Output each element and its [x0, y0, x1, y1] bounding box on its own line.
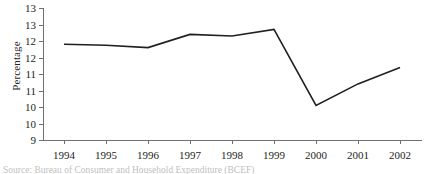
x-tick-label: 2002	[389, 150, 411, 161]
y-tick-label: 12	[25, 52, 36, 63]
x-tick-label: 1996	[137, 150, 159, 161]
x-tick-label: 2001	[347, 150, 369, 161]
x-tick	[148, 140, 149, 144]
y-axis-title: Percentage	[10, 16, 22, 116]
y-tick	[39, 140, 43, 141]
figure: Percentage 13131212111110109 19941995199…	[0, 0, 431, 174]
x-tick	[274, 140, 275, 144]
x-tick-label: 1999	[263, 150, 285, 161]
y-tick-label: 11	[25, 69, 36, 80]
x-tick-label: 1995	[95, 150, 117, 161]
y-tick-label: 13	[25, 3, 36, 14]
x-tick	[64, 140, 65, 144]
x-tick-label: 2000	[305, 150, 327, 161]
series-polyline	[64, 29, 400, 105]
y-tick-label: 10	[25, 118, 36, 129]
x-tick-label: 1998	[221, 150, 243, 161]
plot-area: 13131212111110109 1994199519961997199819…	[43, 8, 421, 140]
x-tick	[232, 140, 233, 144]
x-tick	[106, 140, 107, 144]
x-tick	[358, 140, 359, 144]
x-tick	[400, 140, 401, 144]
y-tick-label: 11	[25, 85, 36, 96]
y-tick-label: 12	[25, 36, 36, 47]
figure-caption: Source: Bureau of Consumer and Household…	[3, 165, 254, 174]
y-tick-label: 10	[25, 102, 36, 113]
x-tick-label: 1997	[179, 150, 201, 161]
x-tick-label: 1994	[53, 150, 75, 161]
x-tick	[190, 140, 191, 144]
x-tick	[316, 140, 317, 144]
y-tick-label: 9	[31, 135, 37, 146]
line-series	[43, 8, 421, 140]
y-tick-label: 13	[25, 19, 36, 30]
